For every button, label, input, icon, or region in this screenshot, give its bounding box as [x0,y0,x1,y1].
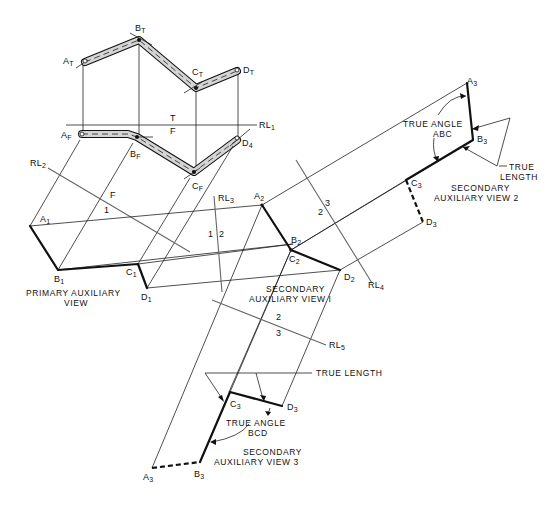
auxiliary-view-drawing: AT BT CT DT T F RL1 AF BF CF D4 RL2 F 1 … [0,0,555,508]
label-d-2: D2 [344,272,355,283]
projection-lines-primary-secondary1 [30,205,340,288]
label-b-f: BF [130,149,141,160]
rl2-top-label: F [110,190,116,200]
label-d-3-upper: D3 [426,217,437,228]
label-b-2: B2 [291,235,302,246]
label-b-3-upper: B3 [477,134,488,145]
label-a-1: A1 [40,214,51,225]
secondary-auxiliary-view-1 [260,203,340,270]
label-d-3-lower: D3 [287,402,298,413]
secondary-aux-3-caption-1: SECONDARY [243,447,302,457]
label-a-t: AT [63,56,74,67]
secondary-aux-3-caption-2: AUXILIARY VIEW 3 [214,457,299,467]
rl5-bottom-label: 3 [276,328,281,338]
secondary-aux-2-caption-1: SECONDARY [451,183,510,193]
reference-line-rl4 [296,160,372,283]
label-c-3-upper: C3 [411,178,422,189]
secondary-aux-2-caption-2: AUXILIARY VIEW 2 [434,193,519,203]
label-c-3-lower: C3 [230,399,241,410]
label-a-f: AF [61,130,72,141]
label-c-1: C1 [126,267,137,278]
reference-line-rl2 [48,168,190,252]
rl5-label: RL5 [329,340,345,351]
rl2-label: RL2 [30,158,46,169]
true-angle-abc-label-1: TRUE ANGLE [403,119,463,129]
label-a-2: A2 [254,191,265,202]
label-b-1: B1 [54,274,65,285]
rl4-right-label: 3 [325,198,330,208]
rl1-label: RL1 [259,120,275,131]
secondary-aux-1-caption-1: SECONDARY [266,284,325,294]
true-angle-bcd-label-2: BCD [248,428,268,438]
rl4-label: RL4 [368,280,384,291]
rl3-left-label: 1 [208,229,213,239]
label-a-3-upper: A3 [467,76,478,87]
primary-aux-caption-2: VIEW [64,298,88,308]
rl2-bottom-label: 1 [104,205,109,215]
rl5-top-label: 2 [276,312,281,322]
secondary-aux-1-caption-2: AUXILIARY VIEW I [249,294,332,304]
rl1-top-label: T [170,113,176,123]
label-c-f: CF [192,181,203,192]
rl3-right-label: 2 [219,229,224,239]
reference-line-rl5 [212,300,326,345]
label-c-2: C2 [289,254,300,265]
label-b-3-lower: B3 [194,469,205,480]
top-view-pipe [76,33,239,93]
projection-lines-secondary1-secondary3 [152,205,340,468]
true-length-label-lower: TRUE LENGTH [316,368,383,378]
label-b-t: BT [135,23,146,34]
rl1-bottom-label: F [170,126,176,136]
reference-line-rl3 [214,196,222,292]
label-d-t: DT [243,65,255,76]
label-a-3-lower: A3 [143,472,154,483]
true-angle-bcd-label-1: TRUE ANGLE [226,418,286,428]
true-angle-abc-label-2: ABC [433,129,452,139]
rl4-left-label: 2 [318,207,323,217]
primary-auxiliary-view [30,226,147,288]
rl3-label: RL3 [218,193,234,204]
label-d-1: D1 [141,292,152,303]
primary-aux-caption-1: PRIMARY AUXILIARY [26,288,121,298]
label-d-4: D4 [242,138,253,149]
front-view-pipe [80,129,250,179]
label-c-t: CT [192,67,204,78]
true-length-label-2-upper: LENGTH [500,172,538,182]
true-length-label-1-upper: TRUE [509,162,535,172]
